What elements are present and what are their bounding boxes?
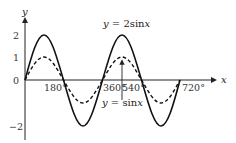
y-tick-1: 1 bbox=[13, 52, 19, 63]
x-tick-180: 180° bbox=[44, 82, 67, 93]
annotation-sinx: y = sinx bbox=[101, 97, 143, 108]
sine-chart: y x 2 1 0 −2 180° 360° 540° 720° y = 2si… bbox=[0, 0, 236, 143]
x-tick-720: 720° bbox=[182, 82, 205, 93]
y-tick-0: 0 bbox=[13, 75, 19, 86]
annotation-2sinx: y = 2sinx bbox=[102, 18, 151, 29]
y-tick-neg2: −2 bbox=[9, 121, 23, 132]
x-axis-label: x bbox=[221, 74, 227, 85]
y-axis-label: y bbox=[21, 6, 28, 17]
y-tick-2: 2 bbox=[13, 30, 19, 41]
x-tick-540: 540° bbox=[122, 82, 145, 93]
